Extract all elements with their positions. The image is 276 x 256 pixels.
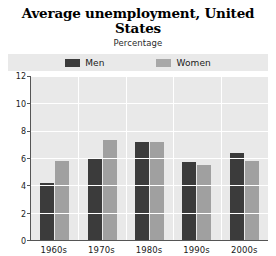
gridline [31,76,268,77]
chart-figure: Average unemployment, United States Perc… [0,6,276,256]
bar-women-1970s[interactable] [103,140,117,240]
gridline [31,103,268,104]
y-tick-mark [27,158,31,159]
y-tick-label: 6 [21,154,26,163]
bar-men-1990s[interactable] [182,162,196,240]
legend-item-men[interactable]: Men [65,58,104,68]
chart-title: Average unemployment, United States [4,6,272,36]
chart-legend: Men Women [8,54,268,71]
y-tick-label: 4 [21,182,26,191]
bar-men-1970s[interactable] [88,159,102,240]
y-tick-mark [27,103,31,104]
chart-subtitle: Percentage [0,38,276,48]
x-tick-label: 1990s [173,245,221,255]
legend-label-women: Women [176,58,210,68]
y-tick-mark [27,213,31,214]
gridline [31,185,268,186]
bar-men-1960s[interactable] [40,183,54,240]
y-tick-label: 10 [16,99,26,108]
x-tick-label: 1970s [78,245,126,255]
y-tick-mark [27,185,31,186]
x-tick-label: 2000s [220,245,268,255]
y-tick-label: 0 [21,237,26,246]
bar-women-1990s[interactable] [197,165,211,240]
plot-area [30,76,268,241]
bar-women-1980s[interactable] [150,142,164,240]
legend-swatch-men-icon [65,59,80,67]
bar-men-2000s[interactable] [230,153,244,240]
y-tick-label: 12 [16,72,26,81]
bar-women-2000s[interactable] [245,161,259,240]
bar-men-1980s[interactable] [135,142,149,240]
legend-label-men: Men [85,58,104,68]
y-tick-mark [27,131,31,132]
y-tick-mark [27,76,31,77]
plot-wrapper: 024681012 [8,76,268,241]
x-tick-label: 1980s [125,245,173,255]
y-tick-label: 2 [21,209,26,218]
gridline [31,131,268,132]
legend-item-women[interactable]: Women [156,58,210,68]
gridline [31,158,268,159]
x-tick-label: 1960s [30,245,78,255]
bar-women-1960s[interactable] [55,161,69,240]
legend-swatch-women-icon [156,59,171,67]
x-axis: 1960s1970s1980s1990s2000s [30,241,268,255]
gridline [31,213,268,214]
y-tick-label: 8 [21,127,26,136]
